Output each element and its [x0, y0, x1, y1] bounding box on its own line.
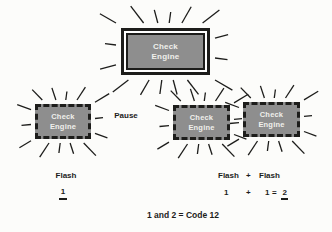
check-engine-label-flash-2: Check Engine: [188, 113, 214, 132]
flash-right-plus: +: [246, 171, 251, 180]
flash-left-count: 1: [44, 187, 82, 200]
check-engine-lamp-main: Check Engine: [121, 28, 210, 75]
pause-label: Pause: [108, 111, 144, 121]
lamp-frame-gap: Check Engine: [124, 31, 207, 72]
flash-left-count-value: 1: [59, 187, 66, 200]
check-engine-label-flash-3: Check Engine: [258, 110, 284, 129]
flash-right-word1: Flash: [218, 171, 239, 180]
flash-left-caption: Flash: [44, 171, 88, 181]
flash-code-diagram: Check Engine Check Engine Pause Check En…: [0, 0, 332, 232]
check-engine-lamp-flash-3: Check Engine: [243, 102, 300, 137]
equation-n2: 1: [265, 188, 269, 197]
lamp-face: Check Engine: [126, 33, 205, 70]
flash-right-word2: Flash: [259, 171, 280, 180]
check-engine-label-flash-1: Check Engine: [50, 112, 76, 131]
equation-plus: +: [246, 188, 251, 197]
check-engine-label-main: Check Engine: [152, 42, 180, 62]
check-engine-lamp-flash-1: Check Engine: [35, 104, 91, 139]
equation-n1: 1: [224, 188, 228, 197]
equation-equals: =: [272, 188, 277, 197]
code-summary: 1 and 2 = Code 12: [103, 210, 263, 220]
check-engine-lamp-flash-2: Check Engine: [173, 105, 230, 140]
equation-result: 2: [281, 188, 288, 200]
